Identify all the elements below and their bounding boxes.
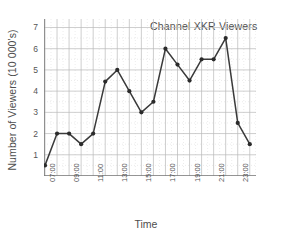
y-axis-title-container: Number of Viewers (10 000's) bbox=[2, 0, 22, 200]
y-tick-label: 7 bbox=[24, 22, 38, 32]
x-tick-label: 23:00 bbox=[241, 163, 250, 182]
x-tick-label: 17:00 bbox=[168, 163, 177, 182]
data-point-marker bbox=[67, 131, 71, 135]
data-point-marker bbox=[103, 79, 107, 83]
data-point-marker bbox=[127, 89, 131, 93]
x-tick-label: 21:00 bbox=[217, 163, 226, 182]
data-point-marker bbox=[199, 57, 203, 61]
y-tick-label: 3 bbox=[24, 107, 38, 117]
data-point-marker bbox=[151, 100, 155, 104]
data-point-marker bbox=[44, 163, 47, 167]
y-tick-label: 1 bbox=[24, 150, 38, 160]
x-tick-label: 11:00 bbox=[96, 164, 105, 182]
data-point-marker bbox=[212, 57, 216, 61]
data-point-marker bbox=[175, 63, 179, 67]
y-tick-label: 4 bbox=[24, 86, 38, 96]
data-point-marker bbox=[236, 121, 240, 125]
data-point-marker bbox=[224, 36, 228, 40]
x-tick-label: 15:00 bbox=[144, 163, 153, 182]
x-tick-label: 09:00 bbox=[72, 163, 81, 182]
data-line-series bbox=[45, 38, 250, 165]
y-tick-label: 6 bbox=[24, 44, 38, 54]
data-point-marker bbox=[163, 47, 167, 51]
data-point-marker bbox=[187, 78, 191, 82]
plot-svg bbox=[44, 19, 256, 176]
x-tick-label: 19:00 bbox=[193, 163, 202, 182]
y-axis-title: Number of Viewers (10 000's) bbox=[6, 29, 18, 170]
x-tick-label: 07:00 bbox=[48, 163, 57, 182]
y-tick-label: 5 bbox=[24, 65, 38, 75]
x-axis-title: Time bbox=[0, 218, 292, 230]
data-point-marker bbox=[115, 68, 119, 72]
data-point-marker bbox=[248, 142, 252, 146]
x-tick-label: 13:00 bbox=[120, 163, 129, 182]
y-tick-label: 2 bbox=[24, 129, 38, 139]
data-point-marker bbox=[139, 110, 143, 114]
line-chart: Number of Viewers (10 000's) Channel XKR… bbox=[0, 0, 292, 241]
data-point-marker bbox=[91, 131, 95, 135]
data-point-marker bbox=[55, 131, 59, 135]
plot-area bbox=[44, 19, 256, 176]
data-point-marker bbox=[79, 142, 83, 146]
